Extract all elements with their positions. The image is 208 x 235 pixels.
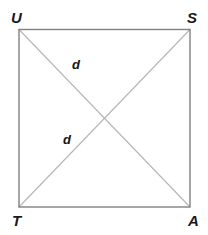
diagonal-measure-label-upper: d [72,58,80,71]
vertex-label-t: T [12,213,21,228]
geometry-figure: U S T A d d [0,0,208,235]
vertex-label-s: S [187,10,197,25]
figure-canvas [0,0,208,235]
vertex-label-u: U [11,10,22,25]
vertex-label-a: A [188,213,199,228]
diagonal-measure-label-lower: d [63,133,71,146]
